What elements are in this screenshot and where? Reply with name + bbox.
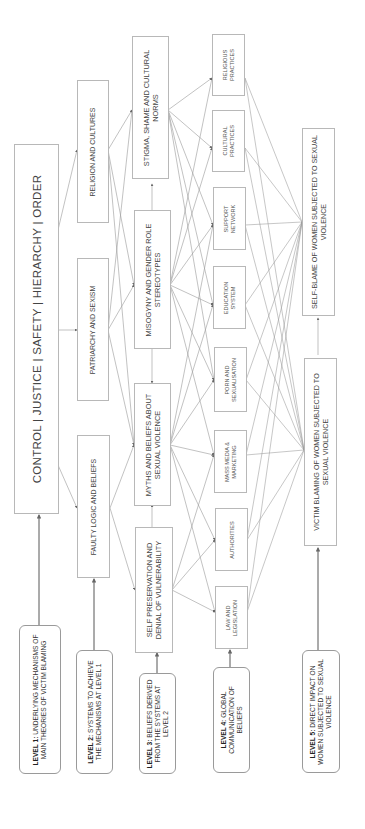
level4-authorities-text: AUTHORITIES	[228, 515, 235, 565]
level4-label: LEVEL 4: GLOBAL COMMUNICATION OF BELIEFS	[213, 667, 250, 773]
level4-label-heading: LEVEL 4:	[219, 720, 226, 749]
level3-label: LEVEL 3: BELIEFS DERIVED FROM THE SYSTEM…	[139, 673, 176, 774]
level4-porn-box: PORN AND SEXUALISATION	[214, 347, 247, 412]
level2-label-text: LEVEL 2: SYSTEMS TO ACHIEVE THE MECHANIS…	[86, 656, 102, 768]
level4-authorities-box: AUTHORITIES	[215, 508, 248, 571]
level1-core-mechanisms-box: CONTROL | JUSTICE | SAFETY | HIERARCHY |…	[14, 144, 59, 514]
level4-mass-media-text: MASS MEDIA & MARKETING	[224, 439, 238, 485]
level3-misogyny-text: MISOGYNY AND GENDER ROLE STEREOTYPES	[143, 217, 162, 342]
level5-label-heading: LEVEL 5:	[309, 729, 316, 758]
level3-misogyny-box: MISOGYNY AND GENDER ROLE STEREOTYPES	[134, 210, 171, 349]
level5-label: LEVEL 5: DIRECT IMPACT ON WOMEN SUBJECTE…	[302, 650, 340, 773]
level1-label: LEVEL 1: UNDERLYING MECHANISMS OF MAIN T…	[19, 625, 61, 774]
level5-victim-blaming-box: VICTIM BLAMING OF WOMEN SUBJECTED TO SEX…	[304, 358, 337, 546]
level4-label-text: LEVEL 4: GLOBAL COMMUNICATION OF BELIEFS	[219, 680, 244, 760]
level4-education-system-box: EDUCATION SYSTEM	[213, 266, 246, 329]
level3-myths-text: MYTHS AND BELIEFS ABOUT SEXUAL VIOLENCE	[143, 387, 162, 502]
level3-stigma-box: STIGMA, SHAME AND CULTURAL NORMS	[132, 36, 169, 179]
level4-cultural-practices-box: CULTURAL PRACTICES	[212, 110, 245, 172]
level5-self-blame-text: SELF-BLAME OF WOMEN SUBJECTED TO SEXUAL …	[310, 132, 328, 312]
level4-law-box: LAW AND LEGISLATION	[215, 586, 248, 649]
level1-label-heading: LEVEL 1:	[32, 736, 39, 765]
level2-religion-box: RELIGION AND CULTURES	[77, 80, 109, 223]
level4-education-system-text: EDUCATION SYSTEM	[223, 275, 237, 321]
level3-label-heading: LEVEL 3:	[145, 739, 152, 768]
level4-support-network-box: SUPPORT NETWORK	[213, 187, 246, 250]
level3-myths-box: MYTHS AND BELIEFS ABOUT SEXUAL VIOLENCE	[134, 383, 171, 506]
level2-faulty-logic-text: FAULTY LOGIC AND BELIEFS	[89, 437, 98, 577]
level2-religion-text: RELIGION AND CULTURES	[89, 82, 98, 222]
level5-victim-blaming-text: VICTIM BLAMING OF WOMEN SUBJECTED TO SEX…	[312, 362, 330, 542]
level4-cultural-practices-text: CULTURAL PRACTICES	[222, 118, 236, 164]
level4-mass-media-box: MASS MEDIA & MARKETING	[214, 430, 247, 493]
level3-self-preservation-text: SELF PRESERVATION AND DENIAL OF VULNERAB…	[145, 530, 164, 650]
level2-label: LEVEL 2: SYSTEMS TO ACHIEVE THE MECHANIS…	[76, 650, 113, 774]
level4-religious-practices-text: RELIGIOUS PRACTICES	[222, 42, 236, 88]
level5-self-blame-box: SELF-BLAME OF WOMEN SUBJECTED TO SEXUAL …	[302, 128, 335, 316]
level4-porn-text: PORN AND SEXUALISATION	[224, 355, 238, 405]
level2-faulty-logic-box: FAULTY LOGIC AND BELIEFS	[77, 435, 110, 578]
level1-label-text: LEVEL 1: UNDERLYING MECHANISMS OF MAIN T…	[32, 630, 48, 770]
level1-core-text: CONTROL | JUSTICE | SAFETY | HIERARCHY |…	[29, 149, 43, 509]
level2-patriarchy-text: PATRIARCHY AND SEXISM	[89, 260, 98, 400]
level5-label-text: LEVEL 5: DIRECT IMPACT ON WOMEN SUBJECTE…	[309, 656, 334, 768]
level4-law-text: LAW AND LEGISLATION	[225, 595, 239, 641]
level2-label-heading: LEVEL 2:	[86, 735, 93, 764]
level3-self-preservation-box: SELF PRESERVATION AND DENIAL OF VULNERAB…	[135, 527, 173, 653]
level4-religious-practices-box: RELIGIOUS PRACTICES	[212, 34, 245, 96]
level4-support-network-text: SUPPORT NETWORK	[223, 196, 237, 242]
level3-stigma-text: STIGMA, SHAME AND CULTURAL NORMS	[141, 48, 160, 168]
level3-label-text: LEVEL 3: BELIEFS DERIVED FROM THE SYSTEM…	[145, 678, 170, 770]
level2-patriarchy-box: PATRIARCHY AND SEXISM	[77, 258, 109, 401]
